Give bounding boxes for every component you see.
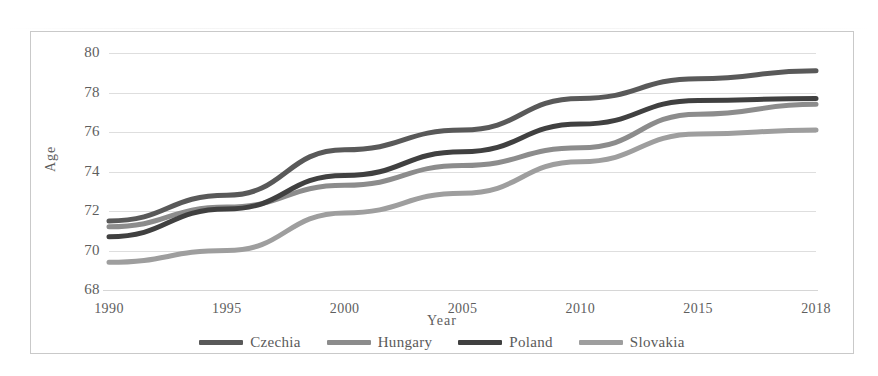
legend-label: Poland: [509, 334, 552, 351]
legend-label: Hungary: [378, 334, 433, 351]
y-axis-tick-label: 70: [84, 242, 100, 259]
y-axis-tick-label: 68: [84, 281, 100, 298]
x-axis-rule: [103, 290, 818, 291]
plot-area: 68707274767880 1990199520002005201020152…: [109, 53, 816, 290]
y-axis-tick-label: 72: [84, 202, 100, 219]
series-line-czechia: [109, 71, 816, 221]
legend-label: Czechia: [250, 334, 300, 351]
chart-frame: Age 68707274767880 199019952000200520102…: [30, 31, 854, 354]
legend-swatch-icon: [579, 340, 623, 345]
y-axis-tick-label: 76: [84, 123, 100, 140]
x-axis-title: Year: [31, 313, 853, 329]
legend-swatch-icon: [327, 340, 371, 345]
legend-item-hungary[interactable]: Hungary: [327, 334, 433, 351]
chart-legend: CzechiaHungaryPolandSlovakia: [31, 334, 853, 351]
legend-swatch-icon: [199, 340, 243, 345]
series-lines-group: [109, 53, 816, 290]
legend-swatch-icon: [458, 340, 502, 345]
y-axis-title: Age: [43, 146, 59, 172]
y-axis-tick-label: 74: [84, 163, 100, 180]
legend-item-poland[interactable]: Poland: [458, 334, 552, 351]
legend-item-slovakia[interactable]: Slovakia: [579, 334, 685, 351]
legend-item-czechia[interactable]: Czechia: [199, 334, 300, 351]
y-axis-tick-label: 78: [84, 84, 100, 101]
legend-label: Slovakia: [630, 334, 685, 351]
scan-artifact-line: [0, 28, 878, 29]
y-axis-tick-label: 80: [84, 44, 100, 61]
